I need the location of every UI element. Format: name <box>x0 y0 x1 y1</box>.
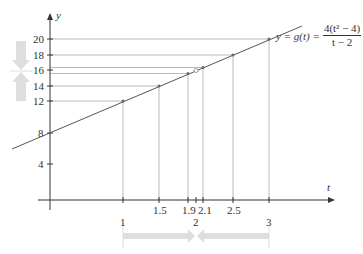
formula-fraction: 4(t² − 4) t − 2 <box>323 22 361 49</box>
formula-denominator: t − 2 <box>332 36 352 49</box>
svg-text:20: 20 <box>33 33 45 45</box>
y-axis-arrow-icon <box>47 13 53 20</box>
y-tick-labels: 20 18 16 14 12 8 4 <box>33 33 45 170</box>
svg-text:16: 16 <box>33 64 45 76</box>
function-line <box>12 26 302 149</box>
y-convergence-arrows <box>10 41 34 101</box>
formula-numerator: 4(t² − 4) <box>323 22 361 36</box>
t-tick-labels: 1.5 1.9 2.1 2.5 1 2 3 <box>120 204 272 228</box>
svg-text:1.5: 1.5 <box>153 204 167 216</box>
svg-text:12: 12 <box>33 95 44 107</box>
svg-text:18: 18 <box>33 49 45 61</box>
y-axis-label: y <box>55 9 61 21</box>
svg-text:1: 1 <box>120 216 126 228</box>
svg-text:2.1: 2.1 <box>198 204 212 216</box>
vertical-guides <box>123 39 269 200</box>
formula-lhs: y = g(t) = <box>276 30 320 42</box>
hole-point <box>194 69 198 73</box>
svg-text:2.5: 2.5 <box>227 204 241 216</box>
t-axis-label: t <box>327 181 331 193</box>
svg-text:2: 2 <box>193 216 199 228</box>
svg-text:4: 4 <box>38 158 44 170</box>
svg-text:3: 3 <box>266 216 272 228</box>
t-convergence-arrows <box>123 225 269 248</box>
t-axis-arrow-icon <box>328 197 335 203</box>
function-formula: y = g(t) = 4(t² − 4) t − 2 <box>276 22 361 49</box>
horizontal-guides <box>50 39 269 101</box>
svg-text:14: 14 <box>33 80 45 92</box>
svg-text:1.9: 1.9 <box>182 204 196 216</box>
